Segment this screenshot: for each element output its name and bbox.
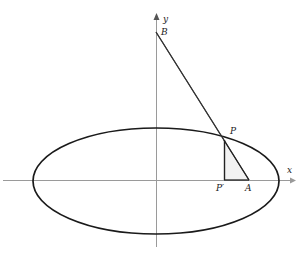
geometry-figure: y B P P′ A x — [0, 0, 300, 257]
y-axis-arrowhead — [154, 13, 160, 20]
x-axis — [3, 178, 296, 184]
x-axis-arrowhead — [290, 178, 296, 184]
x-axis-label: x — [287, 166, 292, 175]
y-axis — [154, 13, 160, 247]
point-label-P-prime: P′ — [216, 184, 224, 193]
point-label-B: B — [161, 28, 168, 37]
point-label-A: A — [245, 184, 252, 193]
figure-canvas — [0, 0, 300, 257]
y-axis-label: y — [163, 15, 168, 24]
point-label-P: P — [230, 127, 236, 136]
segment-B-to-P — [156, 32, 224, 140]
